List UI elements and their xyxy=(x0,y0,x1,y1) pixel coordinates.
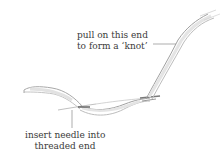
label-pull-end: pull on this end to form a ‘knot’ xyxy=(77,30,148,52)
label-insert-needle-line1: insert needle into xyxy=(25,130,105,141)
label-insert-needle-line2: threaded end xyxy=(25,141,105,152)
thread-left-end xyxy=(24,87,82,109)
diagram-canvas: pull on this end to form a ‘knot’ insert… xyxy=(0,0,224,166)
label-pull-end-line1: pull on this end xyxy=(77,30,148,41)
label-insert-needle: insert needle into threaded end xyxy=(25,130,105,152)
thread-right-end xyxy=(146,10,220,99)
label-pull-end-line2: to form a ‘knot’ xyxy=(77,41,148,52)
